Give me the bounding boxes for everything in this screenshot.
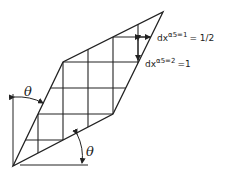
- svg-text:dxα5=1= 1/2: dxα5=1= 1/2: [157, 31, 214, 43]
- angle-label-left: θ: [24, 84, 32, 99]
- bottom-angle-arc: [77, 134, 82, 163]
- grid-lines: [0, 0, 226, 176]
- angle-label-bottom: θ: [86, 144, 94, 159]
- skewed-grid-diagram: θ θ dxα5=1= 1/2 dxα5=2=1: [0, 0, 226, 176]
- svg-text:dxα5=2=1: dxα5=2=1: [145, 57, 191, 69]
- dimension-label-1: dxα5=1= 1/2: [157, 31, 214, 43]
- dimension-label-2: dxα5=2=1: [145, 57, 191, 69]
